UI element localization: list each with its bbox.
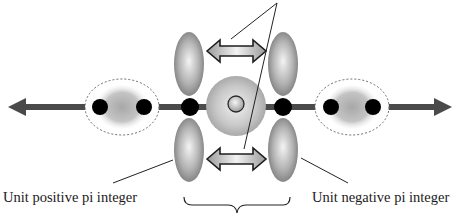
lower-double-arrow-icon (207, 148, 266, 170)
left-inner-dot (136, 99, 152, 115)
right-end-group (315, 79, 389, 135)
left-junction-dot (181, 98, 199, 116)
right-junction-dot (274, 98, 292, 116)
left-label-leader (113, 160, 173, 183)
unit-positive-pi-integer-label: Unit positive pi integer (3, 190, 137, 205)
central-nucleus (206, 76, 266, 136)
left-arrowhead-icon (8, 98, 26, 116)
bottom-brace (184, 197, 290, 213)
pi-integer-diagram: Unit positive pi integer Unit negative p… (0, 0, 459, 222)
upper-double-arrow-icon (207, 40, 266, 62)
upper-right-lobe (268, 32, 298, 96)
unit-negative-pi-integer-label: Unit negative pi integer (312, 190, 449, 205)
lower-left-lobe (174, 118, 204, 182)
nucleus-inner-circle (228, 96, 244, 112)
upper-left-lobe (174, 32, 204, 96)
right-outer-dot (365, 99, 381, 115)
right-label-leader (301, 158, 348, 183)
lower-right-lobe (268, 118, 298, 182)
right-inner-dot (323, 99, 339, 115)
left-outer-dot (92, 99, 108, 115)
right-arrowhead-icon (434, 98, 452, 116)
left-end-group (85, 79, 159, 135)
